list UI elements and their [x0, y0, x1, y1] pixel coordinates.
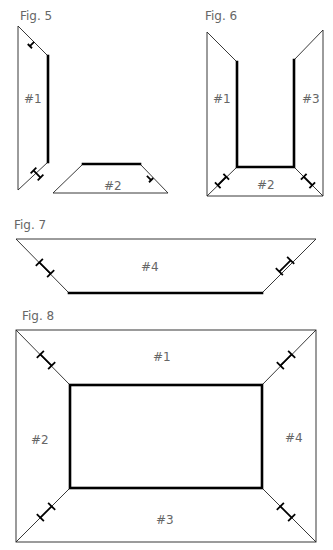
fig7-panel-4-label: #4	[141, 260, 159, 274]
figure-7-label: Fig. 7	[14, 218, 46, 232]
fig8-panel-4-label: #4	[285, 431, 303, 445]
fig6-inner-edge	[237, 60, 294, 167]
fig6-panel-1-label: #1	[213, 92, 231, 106]
fig8-panel-1-label: #1	[153, 350, 171, 364]
figure-5: Fig. 5 #1 #2	[18, 9, 168, 193]
fig5-panel-2: #2	[53, 164, 168, 193]
fig6-panel-3-label: #3	[302, 92, 320, 106]
fig8-panel-3-label: #3	[156, 513, 174, 527]
fig7-panel-4-outline	[16, 239, 316, 293]
clamp-icon	[28, 40, 36, 48]
fig8-panel-2-label: #2	[31, 433, 49, 447]
figure-8-label: Fig. 8	[22, 309, 54, 323]
frame-assembly-diagram: Fig. 5 #1 #2 Fig. 6	[0, 0, 333, 550]
figure-6-label: Fig. 6	[205, 9, 237, 23]
figure-6: Fig. 6 #1 #2 #3	[205, 9, 323, 196]
figure-7: Fig. 7 #4	[14, 218, 316, 293]
clamp-icon	[276, 257, 294, 275]
fig6-panel-2-label: #2	[257, 178, 275, 192]
fig5-panel-1-label: #1	[24, 92, 42, 106]
fig5-panel-1: #1	[18, 26, 48, 190]
fig8-inner-opening	[70, 385, 262, 488]
clamp-icon	[145, 174, 153, 182]
figure-8: Fig. 8 #1 #2 #3 #4	[16, 309, 316, 542]
fig5-panel-1-outline	[18, 26, 48, 190]
fig5-panel-2-label: #2	[104, 179, 122, 193]
clamp-icon	[31, 168, 44, 181]
fig6-outer-outline	[207, 30, 323, 196]
figure-5-label: Fig. 5	[20, 9, 52, 23]
